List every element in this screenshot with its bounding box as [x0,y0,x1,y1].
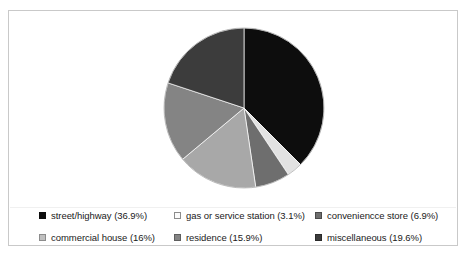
legend-swatch-icon [315,212,322,219]
legend-item-miscellaneous[interactable]: miscellaneous (19.6%) [315,228,422,247]
legend-item-label: street/highway (36.9%) [51,210,147,221]
legend-swatch-icon [174,212,181,219]
pie-chart-area [9,11,457,207]
legend-item-label: miscellaneous (19.6%) [327,232,422,243]
legend-item-label: commercial house (16%) [51,232,155,243]
chart-figure: street/highway (36.9%) gas or service st… [8,10,458,246]
legend-item-street-highway[interactable]: street/highway (36.9%) [39,206,147,225]
legend-item-label: conveniencce store (6.9%) [327,210,438,221]
legend-row: street/highway (36.9%) gas or service st… [9,206,457,225]
legend-item-conveniencce-store[interactable]: conveniencce store (6.9%) [315,206,438,225]
pie-chart[interactable] [158,22,330,194]
legend-swatch-icon [39,234,46,241]
legend-swatch-icon [315,234,322,241]
legend-item-label: gas or service station (3.1%) [186,210,305,221]
legend-item-label: residence (15.9%) [186,232,262,243]
legend-swatch-icon [174,234,181,241]
pie-slice-group [164,28,324,188]
legend-item-residence[interactable]: residence (15.9%) [174,228,262,247]
legend-item-commercial-house[interactable]: commercial house (16%) [39,228,155,247]
legend-swatch-icon [39,212,46,219]
chart-legend: street/highway (36.9%) gas or service st… [9,208,457,246]
legend-item-gas-or-service-station[interactable]: gas or service station (3.1%) [174,206,305,225]
legend-row: commercial house (16%) residence (15.9%)… [9,228,457,247]
